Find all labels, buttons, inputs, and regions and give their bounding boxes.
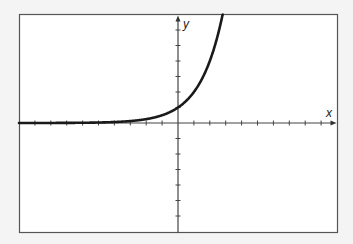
x-axis-label: x (325, 106, 333, 120)
y-axis-label: y (182, 17, 190, 31)
graph-window: x y (0, 0, 353, 244)
